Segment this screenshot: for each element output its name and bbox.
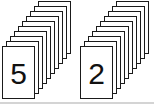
stack-2: 2: [0, 0, 154, 109]
front-card: 2: [80, 46, 113, 99]
card-number: 2: [88, 59, 105, 89]
card-stacks-figure: 5 2: [0, 0, 154, 109]
baseline-divider: [0, 102, 154, 104]
